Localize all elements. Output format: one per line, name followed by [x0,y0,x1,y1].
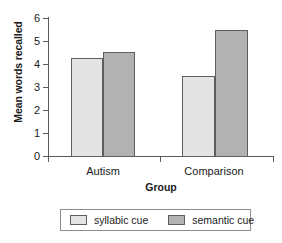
y-tick-label-4: 4 [26,59,40,70]
bar-autism-syllabic [71,58,103,157]
y-axis-line [48,17,49,157]
y-tick-label-5: 5 [26,36,40,47]
y-tick-label-1: 1 [26,128,40,139]
y-tick-label-2: 2 [26,105,40,116]
bar-chart-figure: Mean words recalled 6 5 4 3 2 1 0 Autism… [0,0,282,243]
y-tick-label-3: 3 [26,82,40,93]
legend: syllabic cue semantic cue [60,209,251,231]
bar-comparison-syllabic [182,76,215,157]
legend-entry-syllabic-cue: syllabic cue [70,210,148,230]
bar-autism-semantic [103,52,135,157]
x-category-label-autism: Autism [48,165,158,178]
legend-label-syllabic-cue: syllabic cue [94,214,148,226]
legend-label-semantic-cue: semantic cue [192,214,254,226]
x-tick-mark-start [48,157,49,162]
y-tick-label-6: 6 [26,13,40,24]
legend-swatch-syllabic-icon [70,215,87,225]
legend-swatch-semantic-icon [168,215,185,225]
x-tick-mark-end [273,157,274,162]
x-axis-title: Group [48,181,274,194]
y-tick-label-0: 0 [26,151,40,162]
x-tick-mark-mid [160,157,161,162]
y-axis-title: Mean words recalled [11,0,25,152]
x-category-label-comparison: Comparison [159,165,269,178]
bar-comparison-semantic [215,30,248,157]
legend-entry-semantic-cue: semantic cue [168,210,254,230]
